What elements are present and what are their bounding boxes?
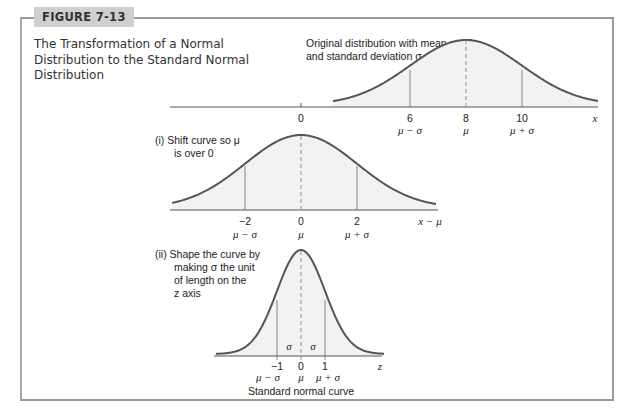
sublabel-mu-minus-sigma: μ − σ [232, 228, 257, 240]
sublabel-mu: μ [297, 371, 304, 383]
tick-label-0: 0 [298, 215, 304, 227]
panel-original: Original distribution with mean μ = 8 an… [170, 37, 598, 136]
tick-label-10: 10 [516, 112, 528, 124]
tick-label-2: 2 [354, 215, 360, 227]
standard-note-line4: z axis [174, 287, 201, 299]
panel-shift: (i) Shift curve so μ is over 0 −2 0 2 μ … [155, 134, 442, 240]
axis-label-z: z [377, 360, 383, 372]
sublabel-mu-minus-sigma: μ − σ [255, 371, 280, 383]
standard-note-line2: making σ the unit [174, 261, 255, 273]
tick-label-0: 0 [298, 112, 304, 124]
standard-note-line1: (ii) Shape the curve by [155, 248, 261, 260]
diagram-canvas: Original distribution with mean μ = 8 an… [0, 0, 628, 415]
tick-label-6: 6 [407, 112, 413, 124]
shift-note-line1: (i) Shift curve so μ [155, 134, 240, 146]
sigma-label-left: σ [286, 340, 292, 352]
panel-standard: (ii) Shape the curve by making σ the uni… [155, 248, 384, 397]
sublabel-mu: μ [462, 124, 469, 136]
sublabel-mu: μ [297, 228, 304, 240]
shift-note-line2: is over 0 [174, 147, 214, 159]
tick-label-neg2: −2 [239, 215, 251, 227]
standard-curve-caption: Standard normal curve [248, 385, 354, 397]
sigma-label-right: σ [310, 340, 316, 352]
standard-note-line3: of length on the [174, 274, 247, 286]
axis-label-x-minus-mu: x − μ [417, 215, 442, 227]
sublabel-mu-minus-sigma: μ − σ [397, 124, 422, 136]
sublabel-mu-plus-sigma: μ + σ [509, 124, 534, 136]
tick-label-8: 8 [463, 112, 469, 124]
axis-label-x: x [592, 112, 598, 124]
sublabel-mu-plus-sigma: μ + σ [344, 228, 369, 240]
sublabel-mu-plus-sigma: μ + σ [315, 371, 340, 383]
